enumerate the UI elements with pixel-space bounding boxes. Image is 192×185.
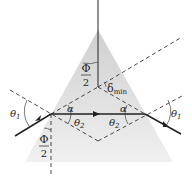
svg-text:Φ: Φ [81,62,90,75]
svg-text:2: 2 [41,148,47,159]
svg-text:Φ: Φ [39,133,48,146]
svg-text:2: 2 [83,77,89,88]
svg-text:θ1: θ1 [171,108,182,121]
svg-text:α: α [67,103,74,114]
svg-text:α: α [120,103,127,114]
svg-text:θ1: θ1 [10,108,21,121]
prism-diagram: Φ 2 δmin α α θ2 θ2 θ1 θ1 Φ 2 [0,0,192,185]
